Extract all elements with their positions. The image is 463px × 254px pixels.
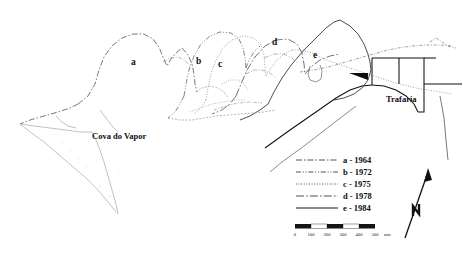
- legend-label-b: b - 1972: [343, 167, 372, 177]
- era-label-d: d: [272, 37, 277, 47]
- era-label-e: e: [313, 50, 317, 60]
- trafaria-landmass: [265, 58, 462, 148]
- inner-channel-traces: [163, 54, 298, 120]
- map-figure: a - 1964 b - 1972 c - 1975 d - 1978 e - …: [0, 0, 463, 254]
- shoreline-1978: [212, 39, 340, 114]
- legend-label-c: c - 1975: [343, 179, 371, 189]
- shoreline-1964: [20, 34, 197, 124]
- era-label-b: b: [196, 56, 201, 66]
- place-label-cova-do-vapor: Cova do Vapor: [92, 131, 146, 141]
- era-label-c: c: [218, 59, 222, 69]
- scale-unit: mts: [384, 232, 391, 237]
- place-label-trafaria: Trafaria: [386, 94, 417, 104]
- north-arrow: [405, 168, 432, 238]
- legend: a - 1964 b - 1972 c - 1975 d - 1978 e - …: [296, 155, 372, 213]
- era-label-a: a: [131, 57, 136, 67]
- legend-label-d: d - 1978: [343, 191, 372, 201]
- scale-tick-100: 100: [308, 232, 316, 237]
- scale-bar: 0 100 200 300 400 500 mts: [294, 224, 391, 237]
- legend-label-a: a - 1964: [343, 155, 372, 165]
- right-edge-line: [440, 96, 448, 160]
- estuary-line: [300, 38, 456, 72]
- map-canvas: a - 1964 b - 1972 c - 1975 d - 1978 e - …: [0, 0, 463, 254]
- scale-tick-200: 200: [324, 232, 332, 237]
- scale-tick-500: 500: [372, 232, 380, 237]
- jetty-marker: [349, 73, 368, 80]
- bay-outline: [20, 110, 118, 214]
- scale-tick-400: 400: [356, 232, 364, 237]
- scale-tick-0: 0: [294, 232, 297, 237]
- legend-label-e: e - 1984: [343, 203, 372, 213]
- scale-tick-300: 300: [340, 232, 348, 237]
- bay-stipple: [54, 134, 121, 201]
- inlet-loop: [308, 65, 322, 82]
- shoreline-1972: [168, 32, 260, 118]
